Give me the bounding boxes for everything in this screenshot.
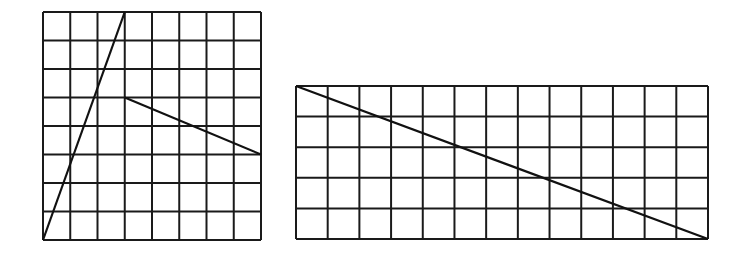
left-grid xyxy=(43,12,261,240)
diagonal-segment xyxy=(296,86,708,239)
right-grid xyxy=(296,86,708,239)
diagram-canvas xyxy=(0,0,739,259)
